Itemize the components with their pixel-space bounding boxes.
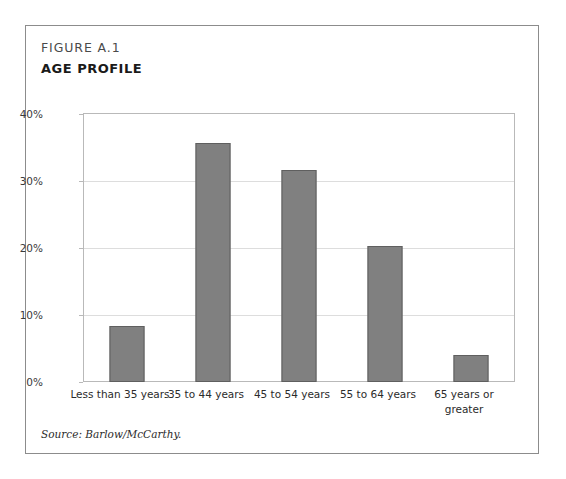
y-axis-tick-mark xyxy=(79,248,83,249)
y-axis-tick-label: 0% xyxy=(0,377,43,388)
y-axis-tick-label: 10% xyxy=(0,310,43,321)
bar[interactable] xyxy=(110,326,145,382)
x-axis-tick-label: 45 to 54 years xyxy=(242,387,342,402)
bar[interactable] xyxy=(454,355,489,382)
y-axis-tick-mark xyxy=(79,114,83,115)
bar[interactable] xyxy=(196,143,231,382)
bar-slot xyxy=(170,114,256,382)
bar-slot xyxy=(342,114,428,382)
y-axis-tick-mark xyxy=(79,382,83,383)
y-axis-tick-label: 20% xyxy=(0,243,43,254)
x-axis-tick-label: 65 years or greater xyxy=(414,387,514,417)
y-axis-tick-mark xyxy=(79,181,83,182)
x-axis-tick-label: 35 to 44 years xyxy=(156,387,256,402)
bar-slot xyxy=(428,114,514,382)
bar-slot xyxy=(84,114,170,382)
bar[interactable] xyxy=(282,170,317,382)
figure-frame: FIGURE A.1 AGE PROFILE 0%10%20%30%40% Le… xyxy=(25,25,539,454)
y-axis-tick-mark xyxy=(79,315,83,316)
source-note: Source: Barlow/McCarthy. xyxy=(41,428,181,440)
y-axis-tick-label: 40% xyxy=(0,109,43,120)
x-axis-tick-label: 55 to 64 years xyxy=(328,387,428,402)
bars-layer xyxy=(84,114,514,382)
y-axis-tick-label: 30% xyxy=(0,176,43,187)
bar[interactable] xyxy=(368,246,403,382)
bar-chart: 0%10%20%30%40% Less than 35 years35 to 4… xyxy=(26,26,538,453)
x-axis-tick-label: Less than 35 years xyxy=(70,387,170,402)
bar-slot xyxy=(256,114,342,382)
